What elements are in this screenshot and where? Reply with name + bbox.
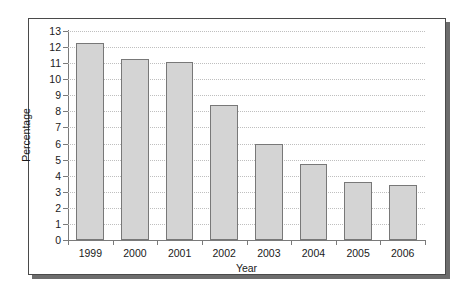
x-axis-title: Year [68,262,425,274]
y-axis-tick [63,224,68,225]
bar [344,182,372,240]
y-axis-tick-label: 13 [49,25,61,37]
y-axis-tick [63,144,68,145]
x-axis-tick-label: 2002 [213,247,236,259]
y-axis-tick-label: 3 [55,186,61,198]
y-axis-tick-label: 11 [50,57,61,69]
x-axis-tick-label: 2006 [391,247,414,259]
y-axis-tick [63,127,68,128]
y-axis-tick [63,95,68,96]
y-axis-tick-label: 2 [55,202,61,214]
bar [389,185,417,240]
y-axis-tick-label: 10 [49,73,61,85]
x-axis-tick [68,240,69,245]
y-axis-tick-label: 0 [55,234,61,246]
y-axis-title: Percentage [20,108,32,162]
y-axis-tick [63,176,68,177]
bar [300,164,328,240]
x-axis-tick-label: 1999 [79,247,102,259]
x-axis-tick-label: 2005 [346,247,369,259]
bar [166,62,194,240]
x-axis-tick-label: 2003 [257,247,280,259]
x-axis-tick [202,240,203,245]
x-axis-tick-label: 2001 [168,247,191,259]
y-axis-tick [63,63,68,64]
x-axis-tick-label: 2000 [123,247,146,259]
x-axis-tick [113,240,114,245]
y-axis-tick-label: 8 [55,105,61,117]
x-axis-tick [380,240,381,245]
x-axis-tick [247,240,248,245]
y-axis-tick [63,111,68,112]
y-axis-tick [63,47,68,48]
y-axis-tick [63,192,68,193]
bar [76,43,104,240]
gridline [68,47,425,48]
plot-area: 012345678910111213 [68,31,425,240]
y-axis-tick [63,79,68,80]
y-axis-tick-label: 1 [55,218,61,230]
y-axis-tick [63,160,68,161]
y-axis-tick-label: 12 [49,41,61,53]
y-axis-tick [63,31,68,32]
x-axis-tick [425,240,426,245]
y-axis-tick-label: 4 [55,170,61,182]
x-axis-tick-label: 2004 [302,247,325,259]
y-axis-tick-label: 6 [55,138,61,150]
bar [255,144,283,240]
y-axis-tick-label: 7 [55,121,61,133]
y-axis-tick-label: 9 [55,89,61,101]
x-axis-tick [157,240,158,245]
chart-figure: 012345678910111213 Percentage Year 19992… [0,0,460,301]
gridline [68,31,425,32]
bar [210,105,238,240]
x-axis-tick [336,240,337,245]
y-axis-tick [63,208,68,209]
y-axis-tick-label: 5 [55,154,61,166]
x-axis-tick [291,240,292,245]
bar [121,59,149,240]
